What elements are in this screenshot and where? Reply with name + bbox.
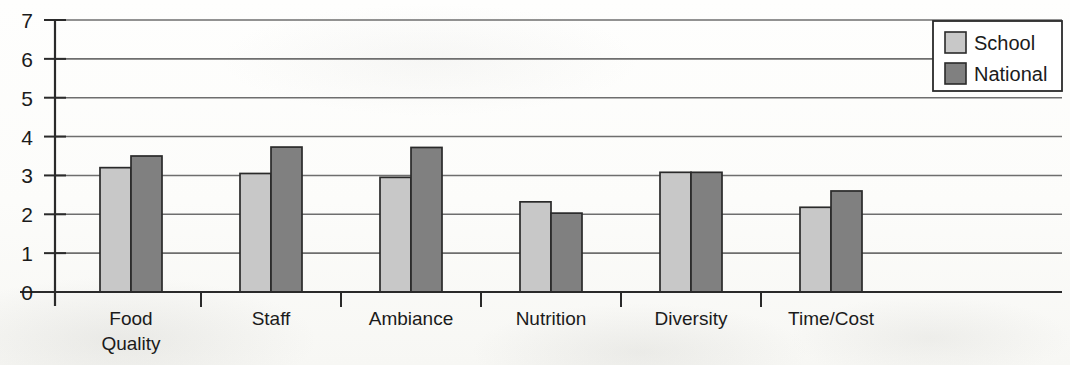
bar-ambiance-national — [411, 147, 442, 292]
category-label-staff: Staff — [252, 308, 291, 329]
y-tick-labels: 01234567 — [21, 9, 33, 304]
bar-food-quality-school — [100, 168, 131, 292]
y-tick-label-2: 2 — [21, 203, 33, 226]
bar-chart-figure: 01234567 FoodQualityStaffAmbianceNutriti… — [0, 0, 1070, 365]
y-tick-label-4: 4 — [21, 126, 33, 149]
bar-ambiance-school — [380, 177, 411, 292]
category-label-nutrition: Nutrition — [516, 308, 587, 329]
bar-diversity-school — [660, 172, 691, 292]
chart-legend: SchoolNational — [933, 21, 1062, 91]
category-label-food-quality: Food — [109, 308, 152, 329]
legend-label-national: National — [974, 63, 1047, 85]
bar-diversity-national — [691, 172, 722, 292]
bars-layer — [100, 147, 862, 292]
category-label-food-quality: Quality — [101, 333, 161, 354]
y-tick-label-7: 7 — [21, 9, 33, 32]
bar-nutrition-national — [551, 213, 582, 292]
chart-plot-area: 01234567 FoodQualityStaffAmbianceNutriti… — [0, 0, 1070, 365]
category-label-diversity: Diversity — [655, 308, 728, 329]
bar-time-cost-national — [831, 191, 862, 292]
bar-nutrition-school — [520, 202, 551, 292]
bar-time-cost-school — [800, 207, 831, 292]
bar-staff-national — [271, 147, 302, 292]
legend-swatch-school — [945, 32, 966, 53]
y-tick-label-5: 5 — [21, 87, 33, 110]
category-label-time-cost: Time/Cost — [788, 308, 875, 329]
category-label-ambiance: Ambiance — [369, 308, 454, 329]
y-tick-label-3: 3 — [21, 164, 33, 187]
y-tick-label-0: 0 — [21, 281, 33, 304]
y-tick-label-6: 6 — [21, 48, 33, 71]
legend-label-school: School — [974, 32, 1035, 54]
bar-staff-school — [240, 173, 271, 292]
category-axis: FoodQualityStaffAmbianceNutritionDiversi… — [101, 292, 874, 354]
bar-food-quality-national — [131, 156, 162, 292]
y-tick-label-1: 1 — [21, 242, 33, 265]
legend-swatch-national — [945, 63, 966, 84]
